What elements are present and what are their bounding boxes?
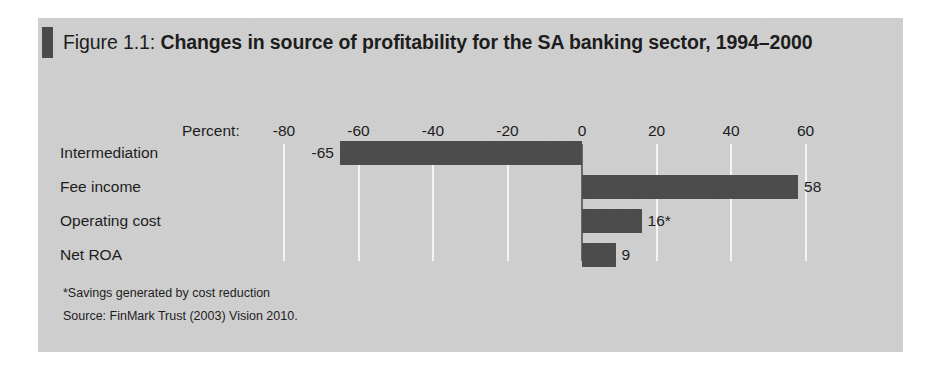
axis-tick-label: -20 bbox=[496, 122, 518, 140]
bar bbox=[582, 209, 642, 233]
figure-container: Figure 1.1: Changes in source of profita… bbox=[0, 0, 942, 372]
axis-tick-label: -40 bbox=[422, 122, 444, 140]
gridline bbox=[730, 144, 732, 261]
chart-plot-area: Percent:-80-60-40-200204060Intermediatio… bbox=[38, 18, 903, 352]
figure-panel: Figure 1.1: Changes in source of profita… bbox=[38, 18, 903, 352]
bar-value-label: -65 bbox=[311, 144, 333, 162]
axis-tick-label: 0 bbox=[578, 122, 587, 140]
axis-tick-label: 60 bbox=[797, 122, 814, 140]
bar-value-label: 9 bbox=[622, 246, 631, 264]
gridline bbox=[656, 144, 658, 261]
axis-unit-label: Percent: bbox=[182, 122, 240, 140]
category-label: Operating cost bbox=[60, 212, 161, 230]
category-label: Net ROA bbox=[60, 246, 122, 264]
bar-value-label: 16* bbox=[648, 212, 671, 230]
footnote-source: Source: FinMark Trust (2003) Vision 2010… bbox=[63, 309, 298, 323]
axis-tick-label: 40 bbox=[722, 122, 739, 140]
axis-tick-label: 20 bbox=[648, 122, 665, 140]
bar bbox=[582, 243, 616, 267]
axis-tick-label: -60 bbox=[347, 122, 369, 140]
gridline bbox=[805, 144, 807, 261]
bar bbox=[582, 175, 798, 199]
category-label: Fee income bbox=[60, 178, 141, 196]
gridline bbox=[283, 144, 285, 261]
footnote-savings: *Savings generated by cost reduction bbox=[63, 286, 270, 300]
bar bbox=[340, 141, 582, 165]
category-label: Intermediation bbox=[60, 144, 158, 162]
axis-tick-label: -80 bbox=[273, 122, 295, 140]
bar-value-label: 58 bbox=[804, 178, 821, 196]
